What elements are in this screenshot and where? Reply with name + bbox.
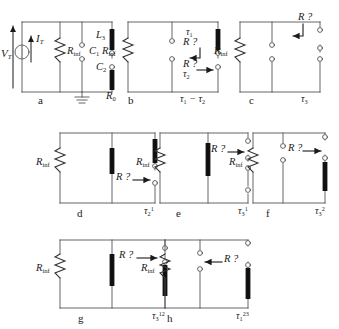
black-bar-mid-d <box>110 148 115 174</box>
panel-letter-f: f <box>266 208 270 219</box>
label-resistor-a: Rinf <box>67 46 81 57</box>
label-resistor-d: Rinf <box>36 157 50 168</box>
label-query-e: R ? <box>211 144 225 155</box>
label-resistor-e: Rinf <box>136 157 150 168</box>
label-query-top-b: R ? <box>183 37 197 48</box>
label-resistor-h: Rinf <box>141 263 155 274</box>
label-query-g: R ? <box>119 250 133 261</box>
label-source-current-a: IT <box>36 33 43 46</box>
current-source-a <box>15 45 29 59</box>
label-query-d: R ? <box>116 172 130 183</box>
panel-letter-b: b <box>128 95 134 106</box>
panel-letter-d: d <box>77 208 83 219</box>
resistor-r-inf-c <box>235 38 245 62</box>
resistor-r-inf-a <box>55 38 65 62</box>
panel-letter-h: h <box>167 313 173 324</box>
black-bar-mid-g <box>110 254 115 286</box>
label-resistor-c: Rinf <box>214 46 228 57</box>
label-query-c: R ? <box>298 12 312 23</box>
arrow-down-left-c <box>293 24 303 36</box>
resistor-r-inf-f <box>248 148 258 172</box>
label-source-voltage-a: VT <box>1 48 12 61</box>
label-capacitor-c2-a: C2 <box>96 62 106 73</box>
black-bar-right-f <box>323 162 328 191</box>
circuit-canvas <box>0 0 339 329</box>
black-bar-mid-e <box>206 143 211 176</box>
label-query-f: R ? <box>288 143 302 154</box>
label-inductor-l3-a: L3 <box>96 30 105 41</box>
resistor-r-inf-g <box>55 254 65 278</box>
arrow-down-left-b <box>190 48 200 58</box>
panel-letter-a: a <box>38 95 43 106</box>
resistor-r-inf-e <box>155 148 165 172</box>
circuit-figure: VT IT Rinf C1 L3 C2 R0 a Rinf τ1 R ? R ?… <box>0 0 339 329</box>
label-tau-diff-b: τ1 − τ2 <box>180 94 205 105</box>
label-tau-f: τ32 <box>315 206 325 217</box>
panel-letter-e: e <box>176 208 181 219</box>
label-tau-h: τ123 <box>236 311 249 322</box>
panel-letter-c: c <box>249 95 254 106</box>
label-resistor-b: Rinf <box>102 46 116 57</box>
label-resistor-r0-a: R0 <box>106 91 116 102</box>
label-query-h: R ? <box>224 254 238 265</box>
r0-bar-a <box>110 70 115 90</box>
black-bar-right-h <box>246 268 251 299</box>
resistor-r-inf-b <box>123 38 133 62</box>
label-tau-c: τ3 <box>301 94 308 105</box>
panel-h-wires <box>165 240 248 308</box>
terminals-c <box>270 28 323 62</box>
panel-c-wires <box>240 22 320 92</box>
resistor-r-inf-d <box>55 148 65 172</box>
label-tau-g: τ312 <box>152 311 165 322</box>
label-query-mid-sub-b: τ2 <box>183 69 190 80</box>
label-tau-e: τ31 <box>238 206 248 217</box>
ground-symbol-a <box>75 92 89 103</box>
label-resistor-g: Rinf <box>36 263 50 274</box>
label-capacitor-c1-a: C1 <box>89 46 99 57</box>
label-resistor-f: Rinf <box>229 157 243 168</box>
panel-letter-g: g <box>78 313 84 324</box>
label-tau-d: τ21 <box>144 206 154 217</box>
